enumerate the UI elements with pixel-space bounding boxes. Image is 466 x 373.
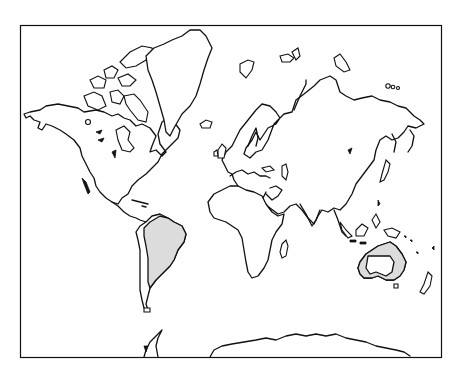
tierra-del-fuego bbox=[144, 308, 150, 312]
greenland bbox=[146, 30, 212, 136]
japan bbox=[380, 160, 390, 182]
iceland bbox=[200, 120, 212, 128]
caribbean-islands bbox=[132, 200, 148, 207]
ireland bbox=[214, 150, 218, 156]
antarctic-peninsula bbox=[144, 330, 162, 357]
kamchatka bbox=[408, 130, 414, 152]
madagascar bbox=[280, 240, 288, 258]
antarctic-island bbox=[144, 346, 148, 352]
tasmania bbox=[394, 284, 398, 288]
british-isles bbox=[218, 144, 226, 158]
south-america-highlight bbox=[144, 216, 186, 288]
central-america bbox=[112, 202, 146, 222]
world-map bbox=[0, 0, 466, 373]
caspian-sea bbox=[282, 164, 288, 180]
new-zealand bbox=[420, 272, 432, 294]
map-canvas bbox=[0, 0, 466, 373]
north-america bbox=[24, 104, 180, 204]
antarctica bbox=[210, 334, 410, 357]
